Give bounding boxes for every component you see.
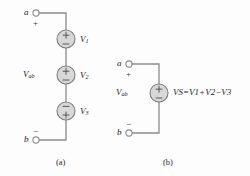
panel-b-schematic	[126, 61, 168, 136]
source-v3-label: V3	[80, 107, 89, 117]
terminal-b-polarity-panel-b: −	[126, 120, 131, 129]
port-voltage-label-panel-b: Vab	[116, 88, 128, 98]
source-v1-subscript: 1	[86, 37, 89, 44]
panel-a-schematic	[33, 10, 75, 143]
terminal-b-node-panel-b	[126, 130, 132, 136]
terminal-a-polarity-panel-b: +	[126, 70, 131, 79]
terminal-a-polarity-panel-a: +	[33, 19, 38, 28]
terminal-b-polarity-panel-a: −	[33, 127, 38, 136]
source-v2-label: V2	[80, 71, 89, 81]
equation-term-3-subscript: 3	[227, 87, 232, 97]
terminal-b-node-panel-a	[33, 137, 39, 143]
terminal-a-node-panel-a	[33, 10, 39, 16]
wire-bottom-panel-b	[132, 102, 159, 133]
source-v2-subscript: 2	[86, 73, 89, 80]
port-voltage-subscript-panel-b: ab	[122, 90, 128, 97]
wire-top-panel-a	[39, 13, 66, 30]
wire-top-panel-b	[132, 64, 159, 84]
terminal-b-label-panel-a: b	[24, 135, 29, 144]
port-voltage-subscript-panel-a: ab	[29, 72, 35, 79]
circuit-figure: a + − b Vab V1 V2 V3 (a) a + − b Vab VS=…	[0, 0, 250, 176]
terminal-b-label-panel-b: b	[117, 128, 122, 137]
port-voltage-label-panel-a: Vab	[23, 70, 35, 80]
source-v3-subscript: 3	[86, 109, 89, 116]
equivalent-source-equation: VS=V1+V2−V3	[173, 88, 231, 97]
caption-panel-b: (b)	[163, 157, 173, 167]
wire-bottom-panel-a	[39, 120, 66, 140]
terminal-a-label-panel-a: a	[24, 8, 29, 17]
terminal-a-label-panel-b: a	[117, 59, 122, 68]
terminal-a-node-panel-b	[126, 61, 132, 67]
caption-panel-a: (a)	[56, 157, 65, 167]
source-v1-label: V1	[80, 35, 89, 45]
